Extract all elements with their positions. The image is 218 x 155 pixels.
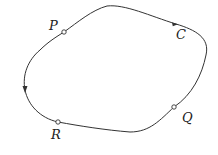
point-p xyxy=(62,30,66,34)
point-q xyxy=(172,105,176,109)
direction-arrow-top xyxy=(172,23,178,27)
label-p: P xyxy=(48,18,58,33)
label-r: R xyxy=(50,127,61,142)
closed-curve-diagram: P C Q R xyxy=(0,0,218,155)
point-r xyxy=(56,120,60,124)
direction-arrow-left xyxy=(23,86,28,93)
label-c: C xyxy=(176,27,186,42)
label-q: Q xyxy=(182,110,193,125)
